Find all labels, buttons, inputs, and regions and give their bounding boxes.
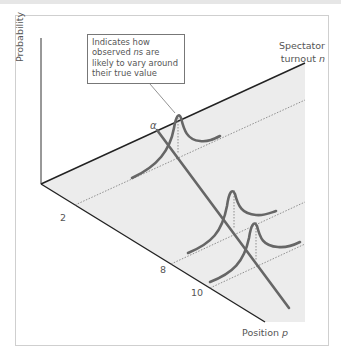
p-axis-label: Position p xyxy=(242,327,288,338)
p-n-plane xyxy=(41,63,305,322)
callout-line-2: observed ns are xyxy=(92,47,180,57)
n-axis-label: Spectator turnout n xyxy=(279,40,325,65)
p-tick-8: 8 xyxy=(160,264,166,275)
callout-line-4: their true value xyxy=(92,68,180,78)
y-axis-label: Probability xyxy=(14,2,25,62)
p-tick-2: 2 xyxy=(60,212,66,223)
callout-leader xyxy=(150,84,175,113)
callout-line-1: Indicates how xyxy=(92,37,180,47)
callout-box: Indicates how observed ns are likely to … xyxy=(87,34,185,84)
alpha-label: α xyxy=(150,120,157,131)
callout-line-3: likely to vary around xyxy=(92,58,180,68)
p-tick-10: 10 xyxy=(191,287,203,298)
